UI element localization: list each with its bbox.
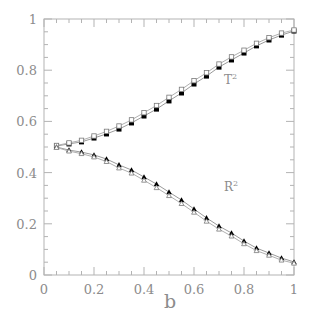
plot-frame	[44, 19, 294, 275]
square-marker-icon	[142, 110, 146, 114]
square-marker-icon	[242, 48, 246, 52]
curve-label-t2: T2	[224, 72, 237, 87]
square-marker-icon	[217, 62, 221, 66]
series-open-square	[54, 28, 296, 148]
square-marker-icon	[229, 55, 233, 59]
x-tick-label: 1	[290, 282, 298, 297]
scattering-chart: 00.20.40.60.81 00.20.40.60.81 b T2R2	[0, 0, 309, 323]
square-marker-icon	[92, 134, 96, 138]
y-tick-labels: 00.20.40.60.81	[16, 12, 37, 283]
x-tick-label: 0.6	[184, 282, 205, 297]
square-marker-icon	[129, 118, 133, 122]
series-filled-square	[54, 29, 297, 149]
square-marker-icon	[167, 95, 171, 99]
square-marker-icon	[117, 124, 121, 128]
square-marker-icon	[267, 35, 271, 39]
plot-area-border	[44, 19, 294, 275]
y-tick-label: 1	[29, 12, 37, 27]
series-line	[57, 148, 295, 264]
series-open-triangle	[54, 145, 296, 265]
curve-labels: T2R2	[224, 72, 238, 193]
square-marker-icon	[254, 41, 258, 45]
series-line	[57, 147, 295, 262]
square-marker-icon	[179, 87, 183, 91]
curve-label-r2: R2	[224, 179, 238, 194]
square-marker-icon	[104, 129, 108, 133]
square-marker-icon	[279, 31, 283, 35]
square-marker-icon	[292, 28, 296, 32]
square-marker-icon	[192, 78, 196, 82]
axis-ticks	[44, 19, 294, 275]
x-tick-label: 0.2	[84, 282, 105, 297]
x-tick-label: 0.8	[234, 282, 255, 297]
y-tick-label: 0.8	[16, 63, 37, 78]
x-tick-label: 0	[40, 282, 48, 297]
x-axis-title: b	[164, 290, 176, 312]
data-series	[54, 28, 297, 265]
y-tick-label: 0.6	[16, 114, 37, 129]
x-tick-label: 0.4	[134, 282, 155, 297]
y-tick-label: 0	[29, 268, 37, 283]
y-tick-label: 0.4	[16, 166, 37, 181]
square-marker-icon	[67, 141, 71, 145]
square-marker-icon	[154, 103, 158, 107]
y-tick-label: 0.2	[16, 217, 37, 232]
series-filled-triangle	[54, 144, 297, 264]
square-marker-icon	[79, 138, 83, 142]
square-marker-icon	[204, 71, 208, 75]
